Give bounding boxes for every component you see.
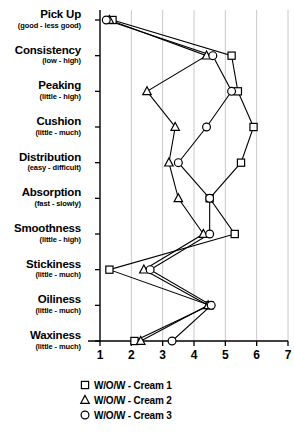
- x-axis-tick-label: 3: [153, 348, 173, 362]
- legend-label: W/O/W - Cream 1: [94, 380, 172, 391]
- data-point-marker: [174, 194, 182, 202]
- series-lines: [106, 20, 253, 341]
- series-line: [106, 20, 231, 341]
- data-point-marker: [168, 337, 176, 345]
- gridlines: [131, 10, 288, 341]
- legend-marker-circle-icon: [78, 408, 94, 422]
- x-axis-tick-label: 4: [184, 348, 204, 362]
- data-point-marker: [165, 158, 173, 166]
- data-point-marker: [228, 87, 236, 95]
- x-axis-tick-label: 6: [247, 348, 267, 362]
- y-axis-ticks: [95, 20, 100, 341]
- data-point-marker: [206, 194, 214, 202]
- data-point-marker: [102, 16, 110, 24]
- data-point-marker: [106, 266, 113, 273]
- legend-label: W/O/W - Cream 3: [94, 410, 172, 421]
- data-point-marker: [231, 230, 238, 237]
- data-point-marker: [228, 52, 235, 59]
- chart-legend: W/O/W - Cream 1W/O/W - Cream 2W/O/W - Cr…: [78, 378, 258, 423]
- data-point-marker: [209, 52, 217, 60]
- x-axis-tick-label: 5: [215, 348, 235, 362]
- data-point-marker: [174, 159, 182, 167]
- legend-item: W/O/W - Cream 1: [78, 378, 258, 392]
- legend-marker-square-icon: [78, 378, 94, 392]
- data-point-marker: [207, 301, 215, 309]
- data-point-marker: [203, 123, 211, 131]
- series-markers: [102, 15, 257, 345]
- legend-marker-triangle-icon: [78, 393, 94, 407]
- data-point-marker: [206, 230, 214, 238]
- data-point-marker: [146, 266, 154, 274]
- data-point-marker: [143, 87, 151, 95]
- plot-area: [0, 0, 294, 360]
- x-axis-tick-label: 2: [121, 348, 141, 362]
- legend-item: W/O/W - Cream 3: [78, 408, 258, 422]
- x-axis-tick-label: 1: [90, 348, 110, 362]
- x-axis-ticks: [100, 341, 288, 346]
- legend-label: W/O/W - Cream 2: [94, 395, 172, 406]
- sensory-profile-chart: Pick Up(good - less good)Consistency(low…: [0, 0, 294, 433]
- x-axis-tick-label: 7: [278, 348, 294, 362]
- legend-item: W/O/W - Cream 2: [78, 393, 258, 407]
- data-point-marker: [237, 159, 244, 166]
- data-point-marker: [250, 123, 257, 130]
